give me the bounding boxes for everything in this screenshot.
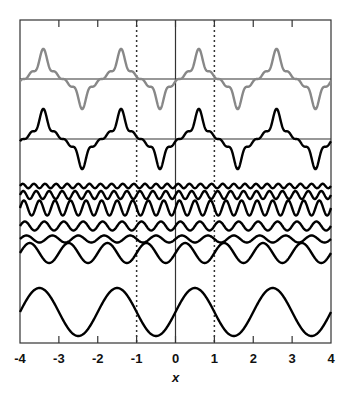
- vertical-reference-lines: [137, 20, 215, 343]
- x-tick-label: -1: [131, 351, 143, 366]
- x-tick-label: -4: [14, 351, 26, 366]
- x-tick-label: 2: [250, 351, 257, 366]
- x-tick-label: 4: [327, 351, 335, 366]
- x-tick-label: 1: [211, 351, 218, 366]
- harmonic-7-curve: [20, 184, 331, 188]
- x-tick-label: 3: [289, 351, 296, 366]
- x-tick-label: -3: [53, 351, 65, 366]
- x-axis-label: x: [171, 370, 180, 385]
- x-tick-label: -2: [92, 351, 104, 366]
- plot-area: [20, 20, 331, 343]
- chart-figure: -4-3-2-101234 x: [0, 0, 350, 402]
- x-tick-labels: -4-3-2-101234: [14, 351, 335, 366]
- x-tick-label: 0: [172, 351, 179, 366]
